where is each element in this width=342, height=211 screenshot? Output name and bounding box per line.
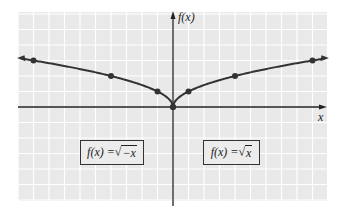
- right-function-label: f(x) = √ x: [203, 140, 260, 165]
- data-point: [155, 89, 161, 95]
- data-point: [108, 73, 114, 79]
- radical-icon: √: [115, 145, 122, 160]
- data-point: [232, 73, 238, 79]
- radical-icon: √: [238, 145, 245, 160]
- right-radicand: x: [245, 145, 252, 161]
- right-function-name: f(x) =: [211, 145, 239, 160]
- data-point: [170, 104, 176, 110]
- left-function-name: f(x) =: [87, 145, 115, 160]
- data-point: [310, 58, 316, 64]
- left-radicand: −x: [121, 145, 136, 161]
- left-function-label: f(x) = √ −x: [80, 140, 144, 165]
- chart-canvas: [0, 0, 342, 211]
- data-point: [186, 89, 192, 95]
- y-axis-label: f(x): [178, 10, 195, 25]
- data-point: [31, 58, 37, 64]
- x-axis-label: x: [318, 110, 323, 125]
